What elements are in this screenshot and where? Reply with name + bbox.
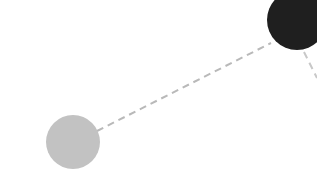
diagram-canvas	[0, 0, 317, 195]
diagram-svg	[0, 0, 317, 195]
node-light[interactable]	[46, 115, 100, 169]
